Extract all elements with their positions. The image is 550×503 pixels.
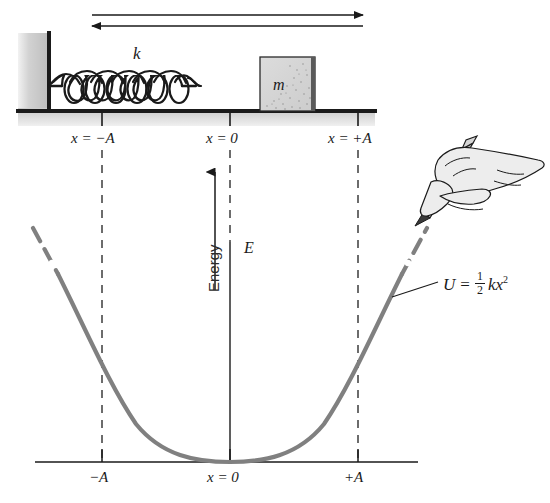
mass-label: m: [273, 77, 285, 93]
x-tick-label-plus-a: +A: [344, 470, 363, 485]
hand-icon: [420, 148, 544, 217]
mass-block: [260, 57, 315, 111]
formula-numerator: 1: [475, 270, 485, 283]
apparatus-tick-plus-a: x = +A: [328, 131, 372, 146]
formula-symbol-u: U: [443, 276, 455, 293]
curve-dashed-right: [402, 228, 427, 274]
hand-drawing-illustration: [415, 136, 544, 226]
formula-coefficient: kx: [488, 275, 503, 294]
energy-diagram-figure: k m x = −A x = 0 x = +A Energy E −A x = …: [0, 0, 550, 503]
spring-constant-label: k: [133, 45, 141, 62]
apparatus-tick-zero: x = 0: [206, 131, 238, 146]
curve-dashed-left: [33, 228, 58, 274]
ground: [18, 111, 375, 126]
motion-arrows: [92, 15, 363, 26]
formula-fraction: 1 2: [475, 270, 485, 296]
wall: [18, 33, 49, 120]
apparatus-tick-minus-a: x = −A: [71, 131, 115, 146]
potential-energy-formula: U = 1 2 kx2: [443, 271, 508, 297]
y-axis-label: Energy: [206, 244, 221, 292]
x-tick-label-minus-a: −A: [89, 470, 108, 485]
x-tick-label-zero: x = 0: [207, 470, 239, 485]
formula-denominator: 2: [475, 283, 485, 297]
formula-kx: kx2: [488, 275, 508, 293]
total-energy-label: E: [244, 240, 254, 256]
formula-exponent: 2: [503, 274, 508, 285]
energy-axis: [215, 172, 230, 462]
formula-equals: =: [460, 276, 470, 293]
